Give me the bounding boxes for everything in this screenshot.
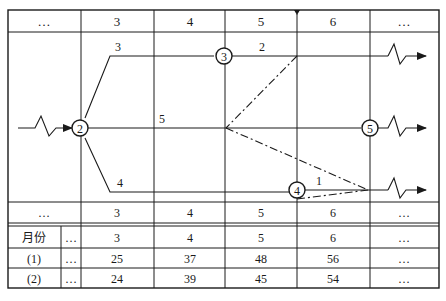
svg-text:2: 2 bbox=[77, 122, 83, 136]
svg-text:3: 3 bbox=[114, 14, 121, 29]
cost-table-row: (1) … 25 37 48 56 … bbox=[27, 252, 410, 266]
incoming-wavy-arrow bbox=[18, 116, 72, 136]
activity-label: 4 bbox=[117, 176, 123, 190]
svg-text:…: … bbox=[398, 252, 410, 266]
cost-table-row: (2) … 24 39 45 54 … bbox=[27, 272, 410, 286]
svg-text:39: 39 bbox=[184, 272, 196, 286]
activity-label: 2 bbox=[259, 40, 265, 54]
node-4: 4 bbox=[289, 182, 305, 198]
svg-text:4: 4 bbox=[294, 184, 300, 198]
svg-text:(2): (2) bbox=[27, 272, 41, 286]
outgoing-wavy-arrow bbox=[388, 44, 426, 64]
outgoing-wavy-arrow bbox=[378, 116, 426, 136]
svg-text:5: 5 bbox=[367, 122, 373, 136]
bottom-time-scale: … 3 4 5 6 … bbox=[38, 206, 410, 220]
svg-text:25: 25 bbox=[111, 252, 123, 266]
svg-text:…: … bbox=[38, 14, 51, 29]
node-3: 3 bbox=[216, 48, 232, 64]
svg-text:…: … bbox=[65, 231, 77, 245]
activity-2-4 bbox=[85, 138, 289, 192]
outgoing-wavy-arrow bbox=[388, 178, 426, 198]
activity-label: 5 bbox=[159, 112, 165, 126]
svg-text:…: … bbox=[398, 14, 411, 29]
activity-label: 1 bbox=[316, 174, 322, 188]
svg-text:24: 24 bbox=[111, 272, 123, 286]
svg-text:45: 45 bbox=[255, 272, 267, 286]
svg-text:6: 6 bbox=[330, 231, 336, 245]
svg-text:5: 5 bbox=[258, 14, 265, 29]
svg-text:6: 6 bbox=[330, 14, 337, 29]
svg-text:月份: 月份 bbox=[22, 231, 46, 245]
node-5: 5 bbox=[362, 120, 378, 136]
svg-text:…: … bbox=[398, 231, 410, 245]
svg-text:5: 5 bbox=[258, 206, 264, 220]
node-2: 2 bbox=[72, 120, 88, 136]
svg-text:3: 3 bbox=[221, 50, 227, 64]
svg-text:4: 4 bbox=[187, 206, 193, 220]
svg-text:37: 37 bbox=[184, 252, 196, 266]
svg-text:(1): (1) bbox=[27, 252, 41, 266]
svg-text:…: … bbox=[65, 252, 77, 266]
check-line-marker-icon bbox=[294, 10, 300, 15]
activity-2-3 bbox=[85, 56, 214, 118]
free-float-line bbox=[226, 56, 297, 128]
free-float-line bbox=[297, 190, 368, 199]
svg-text:3: 3 bbox=[114, 206, 120, 220]
svg-text:6: 6 bbox=[330, 206, 336, 220]
svg-text:56: 56 bbox=[327, 252, 339, 266]
svg-text:54: 54 bbox=[327, 272, 339, 286]
top-time-scale: … 3 4 5 6 … bbox=[38, 14, 411, 29]
svg-text:48: 48 bbox=[255, 252, 267, 266]
network-diagram: … 3 4 5 6 … 3 2 5 4 1 2 3 4 5 bbox=[0, 0, 446, 301]
svg-text:4: 4 bbox=[187, 14, 194, 29]
cost-table-header: 月份 … 3 4 5 6 … bbox=[22, 231, 410, 245]
svg-text:…: … bbox=[398, 206, 410, 220]
svg-text:…: … bbox=[65, 272, 77, 286]
svg-text:5: 5 bbox=[258, 231, 264, 245]
svg-text:…: … bbox=[398, 272, 410, 286]
svg-text:4: 4 bbox=[187, 231, 193, 245]
activity-label: 3 bbox=[115, 40, 121, 54]
svg-text:…: … bbox=[38, 206, 50, 220]
svg-text:3: 3 bbox=[114, 231, 120, 245]
